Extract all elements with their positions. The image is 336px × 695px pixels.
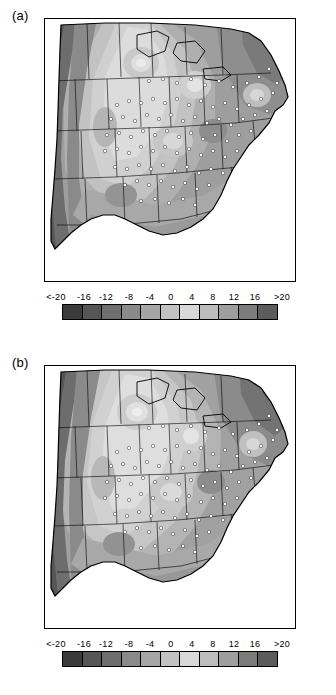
colorbar-tick: -12 [99, 639, 113, 649]
colorbar-tick: 12 [229, 292, 240, 302]
colorbar-tick: 4 [189, 639, 194, 649]
colorbar-cell [180, 305, 200, 319]
panel-a-map-svg [45, 19, 295, 281]
colorbar-tick: 8 [210, 639, 215, 649]
colorbar-cell [258, 305, 277, 319]
panel-b-map [44, 365, 296, 629]
figure-root: (a) [0, 0, 336, 695]
panel-b-map-svg [45, 366, 295, 628]
panel-b: (b) [0, 347, 336, 695]
colorbar-tick: <-20 [46, 639, 65, 649]
panel-b-colorbar-strip [62, 651, 278, 667]
colorbar-cell [239, 652, 259, 666]
colorbar-cell [83, 652, 103, 666]
colorbar-cell [200, 652, 220, 666]
colorbar-tick: >20 [274, 639, 290, 649]
colorbar-cell [63, 652, 83, 666]
colorbar-cell [219, 652, 239, 666]
colorbar-cell [239, 305, 259, 319]
colorbar-cell [63, 305, 83, 319]
colorbar-cell [141, 652, 161, 666]
panel-a: (a) [0, 0, 336, 348]
panel-a-label: (a) [12, 8, 29, 23]
colorbar-tick: -12 [99, 292, 113, 302]
colorbar-cell [161, 652, 181, 666]
panel-a-colorbar-ticks: <-20 -16 -12 -8 -4 0 4 8 12 16 >20 [44, 292, 294, 304]
colorbar-tick: 0 [168, 639, 173, 649]
panel-a-map [44, 18, 296, 282]
colorbar-tick: 8 [210, 292, 215, 302]
colorbar-tick: -8 [125, 639, 134, 649]
colorbar-tick: -4 [146, 292, 155, 302]
colorbar-cell [180, 652, 200, 666]
colorbar-cell [122, 305, 142, 319]
colorbar-tick: -16 [77, 292, 91, 302]
colorbar-tick: 16 [250, 639, 261, 649]
colorbar-cell [102, 305, 122, 319]
colorbar-tick: 16 [250, 292, 261, 302]
panel-a-colorbar: <-20 -16 -12 -8 -4 0 4 8 12 16 >20 [44, 294, 294, 334]
colorbar-tick: -8 [125, 292, 134, 302]
panel-b-label: (b) [12, 355, 29, 370]
panel-a-colorbar-strip [62, 304, 278, 320]
panel-b-colorbar: <-20 -16 -12 -8 -4 0 4 8 12 16 >20 [44, 641, 294, 681]
colorbar-tick: 0 [168, 292, 173, 302]
colorbar-cell [122, 652, 142, 666]
colorbar-tick: -4 [146, 639, 155, 649]
colorbar-tick: >20 [274, 292, 290, 302]
colorbar-cell [141, 305, 161, 319]
colorbar-tick: -16 [77, 639, 91, 649]
panel-b-colorbar-ticks: <-20 -16 -12 -8 -4 0 4 8 12 16 >20 [44, 639, 294, 651]
colorbar-tick: 12 [229, 639, 240, 649]
colorbar-tick: 4 [189, 292, 194, 302]
colorbar-cell [161, 305, 181, 319]
colorbar-cell [83, 305, 103, 319]
colorbar-cell [219, 305, 239, 319]
colorbar-cell [102, 652, 122, 666]
colorbar-tick: <-20 [46, 292, 65, 302]
colorbar-cell [258, 652, 277, 666]
colorbar-cell [200, 305, 220, 319]
